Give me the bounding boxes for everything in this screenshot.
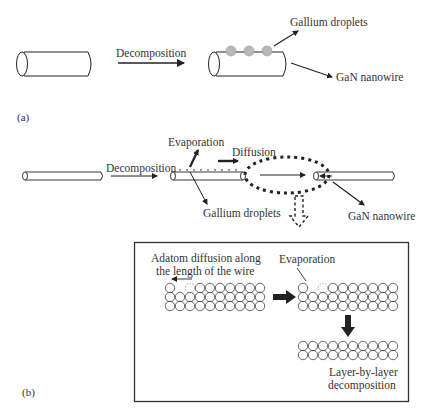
- evaporation-label-inset: Evaporation: [279, 253, 335, 266]
- adatom-label-line2: the length of the wire: [156, 265, 254, 278]
- droplets-pointer-arrow-icon: [274, 31, 298, 46]
- layer-label-line1: Layer-by-layer: [329, 366, 398, 379]
- evaporation-label-b: Evaporation: [168, 136, 224, 149]
- decomposition-label-b: Decomposition: [106, 162, 177, 175]
- gallium-dot-row-icon: [179, 169, 237, 171]
- layer-label-line2: decomposition: [328, 379, 396, 392]
- figure-canvas: Decomposition Gallium droplets GaN nanow…: [0, 0, 430, 417]
- gallium-droplets-icon: [226, 46, 272, 56]
- panel-a: Decomposition Gallium droplets GaN nanow…: [17, 16, 404, 124]
- gan-nanowire-label-b: GaN nanowire: [348, 210, 415, 222]
- panel-b-label: (b): [22, 386, 35, 399]
- droplets-pointer-b-icon: [190, 172, 207, 204]
- thin-nanowire-with-droplets-icon: [171, 172, 246, 180]
- gallium-droplets-label-a: Gallium droplets: [290, 16, 368, 29]
- diffusion-label: Diffusion: [232, 146, 276, 158]
- panel-a-label: (a): [17, 111, 30, 124]
- nanowire-pointer-arrow-icon: [291, 63, 332, 77]
- gan-nanowire-label-a: GaN nanowire: [336, 71, 403, 83]
- evaporation-arrow-icon: [190, 150, 198, 167]
- mechanism-inset: Adatom diffusion along the length of the…: [135, 243, 409, 402]
- adatom-label-line1: Adatom diffusion along: [151, 252, 261, 265]
- decomposition-label-a: Decomposition: [116, 47, 187, 60]
- thin-nanowire-before-icon: [23, 172, 103, 180]
- gallium-droplets-label-b: Gallium droplets: [203, 207, 281, 220]
- zoom-down-arrow-icon: [290, 196, 308, 227]
- nanowire-pointer-b-icon: [333, 182, 364, 205]
- nanowire-before-icon: [17, 52, 92, 76]
